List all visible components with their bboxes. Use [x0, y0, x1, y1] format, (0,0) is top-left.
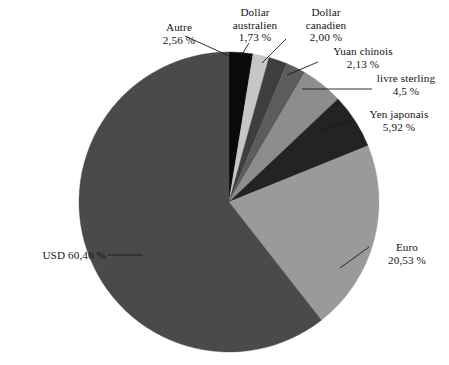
slice-label-livre-sterling-name: livre sterling	[366, 72, 446, 85]
slice-label-autre-name: Autre	[140, 21, 218, 34]
slice-label-usd: USD 60,46 %	[8, 249, 106, 262]
pie-slice-group	[79, 52, 379, 352]
slice-label-dollar-australien-name-line2: australien	[218, 19, 292, 32]
slice-label-livre-sterling-value: 4,5 %	[366, 85, 446, 98]
slice-label-dollar-canadien-name-line2: canadien	[290, 19, 362, 32]
slice-label-livre-sterling: livre sterling 4,5 %	[366, 72, 446, 97]
slice-label-dollar-canadien-name-line1: Dollar	[290, 6, 362, 19]
slice-label-dollar-australien: Dollar australien 1,73 %	[218, 6, 292, 44]
slice-label-dollar-australien-value: 1,73 %	[218, 31, 292, 44]
slice-label-dollar-canadien: Dollar canadien 2,00 %	[290, 6, 362, 44]
pie-chart-figure: Autre 2,56 % Dollar australien 1,73 % Do…	[0, 0, 449, 365]
slice-label-yuan-chinois-value: 2,13 %	[321, 58, 405, 71]
slice-label-euro: Euro 20,53 %	[374, 241, 440, 266]
slice-label-yuan-chinois: Yuan chinois 2,13 %	[321, 45, 405, 70]
slice-label-yuan-chinois-name: Yuan chinois	[321, 45, 405, 58]
slice-label-yen-japonais-value: 5,92 %	[355, 121, 443, 134]
slice-label-euro-name: Euro	[374, 241, 440, 254]
slice-label-dollar-canadien-value: 2,00 %	[290, 31, 362, 44]
slice-label-dollar-australien-name-line1: Dollar	[218, 6, 292, 19]
slice-label-yen-japonais-name: Yen japonais	[355, 108, 443, 121]
slice-label-yen-japonais: Yen japonais 5,92 %	[355, 108, 443, 133]
slice-label-usd-text: USD 60,46 %	[42, 249, 106, 261]
slice-label-autre: Autre 2,56 %	[140, 21, 218, 46]
slice-label-autre-value: 2,56 %	[140, 34, 218, 47]
slice-label-euro-value: 20,53 %	[374, 254, 440, 267]
